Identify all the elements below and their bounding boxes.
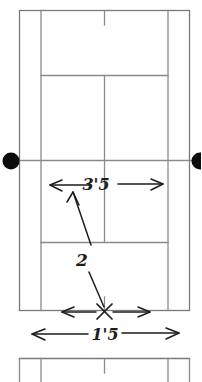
callout-leader-upper [67,192,91,245]
main-court [11,11,199,311]
net-post-right [192,153,202,170]
label-width-upper: 3'5 [82,175,109,194]
callout-leader-lower [89,272,104,307]
label-width-lower: 1'5 [91,325,118,344]
net-post-left [3,153,20,170]
second-court-partial [20,359,190,382]
leader-line-upper [73,192,91,245]
annotation-layer [32,179,179,340]
label-callout-two: 2 [75,250,88,270]
diagram-canvas: 3'5 2 1'5 [0,0,201,382]
tennis-court-diagram: 3'5 2 1'5 [0,0,201,382]
